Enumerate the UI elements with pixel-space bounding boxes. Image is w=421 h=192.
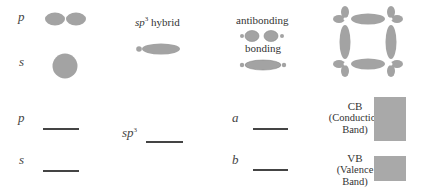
b-level-line (253, 169, 288, 171)
s-orbital-label: s (19, 54, 24, 70)
bonding-label: bonding (245, 42, 281, 54)
a-level-label: a (232, 110, 239, 126)
valence-band-box (374, 156, 406, 181)
b-level-label: b (232, 152, 239, 168)
s-level-line (43, 170, 79, 172)
sp-text: sp (135, 16, 145, 28)
orbital-lattice-shape (330, 2, 406, 78)
sp3-sup: 3 (134, 126, 138, 134)
p-level-label: p (18, 110, 25, 126)
hybrid-text: hybrid (148, 16, 179, 28)
p-orbital-label: p (18, 9, 25, 25)
bonding-shape (239, 58, 289, 72)
sp3-hybrid-shape (135, 42, 183, 56)
a-level-line (253, 128, 288, 130)
conduction-band-box (374, 97, 406, 141)
antibonding-label: antibonding (236, 14, 289, 26)
p-level-line (43, 128, 79, 130)
p-orbital-shape (44, 10, 88, 28)
s-orbital-shape (51, 52, 79, 80)
sp3-level-label: sp3 (122, 125, 137, 141)
s-level-label: s (19, 152, 24, 168)
sp3-level-line (146, 141, 183, 143)
antibonding-shape (239, 29, 289, 43)
sp3-base: sp (122, 125, 134, 140)
sp3-hybrid-label: sp3 hybrid (135, 15, 180, 28)
